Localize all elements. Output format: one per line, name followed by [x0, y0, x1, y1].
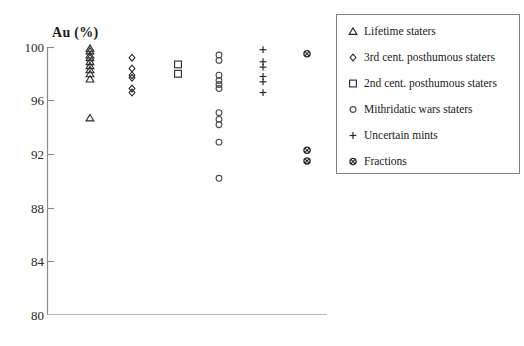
legend-item-uncertain-mints: Uncertain mints	[346, 122, 519, 148]
legend-item-lifetime-staters: Lifetime staters	[346, 18, 519, 44]
data-points-layer	[86, 45, 310, 181]
legend-label: Fractions	[364, 155, 407, 167]
data-point	[304, 158, 310, 164]
legend: Lifetime staters 3rd cent. posthumous st…	[336, 14, 520, 174]
data-point	[304, 51, 310, 57]
data-point	[175, 70, 182, 77]
data-point	[304, 147, 310, 153]
legend-label: 2nd cent. posthumous staters	[364, 77, 497, 89]
triangle-marker-icon	[346, 24, 360, 38]
data-point	[175, 61, 182, 68]
data-point	[129, 54, 135, 61]
data-point	[260, 46, 267, 53]
square-marker-icon	[346, 76, 360, 90]
data-point	[216, 86, 222, 92]
data-point	[216, 110, 222, 116]
legend-label: 3rd cent. posthumous staters	[364, 51, 495, 63]
legend-item-2nd-cent-posthumous-staters: 2nd cent. posthumous staters	[346, 70, 519, 96]
data-point	[86, 114, 94, 121]
data-point	[216, 175, 222, 181]
data-point	[260, 89, 267, 96]
legend-label: Mithridatic wars staters	[364, 103, 473, 115]
data-point	[129, 65, 135, 72]
legend-item-3rd-cent-posthumous-staters: 3rd cent. posthumous staters	[346, 44, 519, 70]
circle-x-marker-icon	[346, 154, 360, 168]
legend-label: Lifetime staters	[364, 25, 436, 37]
data-point	[216, 139, 222, 145]
chart-screenshot: Au (%) 100 96 92 88 84 80 Lifetime state…	[0, 0, 524, 346]
diamond-marker-icon	[346, 50, 360, 64]
plus-marker-icon	[346, 128, 360, 142]
data-point	[260, 78, 267, 85]
legend-item-fractions: Fractions	[346, 148, 519, 174]
legend-label: Uncertain mints	[364, 129, 438, 141]
data-point	[260, 64, 267, 71]
legend-item-mithridatic-wars-staters: Mithridatic wars staters	[346, 96, 519, 122]
circle-marker-icon	[346, 102, 360, 116]
